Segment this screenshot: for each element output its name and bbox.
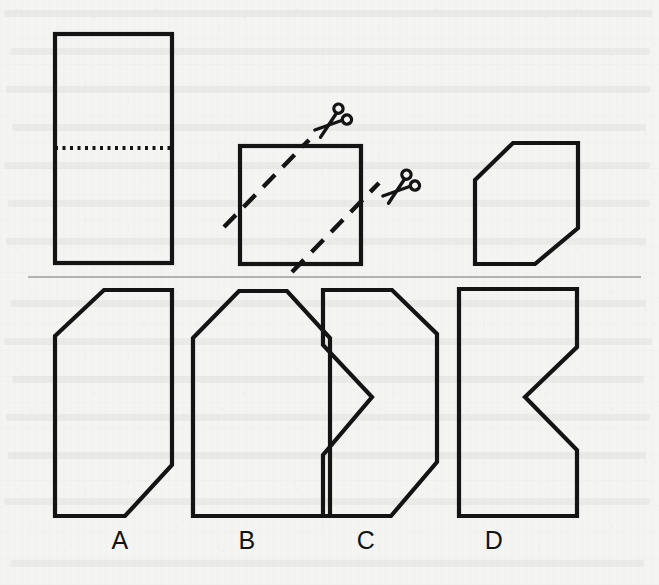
step-1-fold-figure bbox=[55, 34, 172, 263]
puzzle-figure: A B C D bbox=[0, 0, 659, 585]
cut-line-upper bbox=[224, 140, 309, 227]
option-c-shape[interactable] bbox=[323, 290, 437, 516]
option-d-label: D bbox=[485, 526, 504, 554]
option-b[interactable]: B bbox=[193, 291, 330, 554]
step-2-cut-figure bbox=[224, 102, 421, 272]
option-b-label: B bbox=[238, 526, 255, 554]
option-a-shape[interactable] bbox=[55, 290, 172, 516]
option-a[interactable]: A bbox=[55, 290, 172, 554]
option-b-shape[interactable] bbox=[193, 291, 330, 516]
step-3-result-figure bbox=[475, 143, 578, 264]
option-c-label: C bbox=[357, 526, 376, 554]
puzzle-page: A B C D bbox=[0, 0, 659, 585]
folded-square bbox=[240, 146, 361, 264]
scissors-icon bbox=[379, 168, 422, 208]
result-hexagon bbox=[475, 143, 578, 264]
cut-line-lower bbox=[292, 183, 379, 272]
option-a-label: A bbox=[111, 526, 128, 554]
prompt-row bbox=[55, 34, 578, 272]
option-d[interactable]: D bbox=[459, 289, 577, 554]
option-c[interactable]: C bbox=[323, 290, 437, 554]
scissors-icon bbox=[311, 102, 354, 142]
answer-choices-row: A B C D bbox=[55, 289, 577, 554]
option-d-shape[interactable] bbox=[459, 289, 577, 516]
